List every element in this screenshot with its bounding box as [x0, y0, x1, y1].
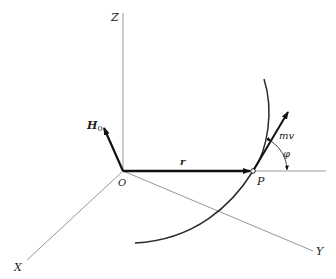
angular-momentum-subscript: 0	[97, 124, 102, 133]
angular-momentum-symbol: H	[86, 119, 98, 132]
x-axis	[27, 171, 123, 260]
momentum-vector-label: mv	[279, 130, 294, 141]
angular-momentum-diagram: Z X Y O H0 r mv P φ	[0, 0, 336, 279]
x-axis-label: X	[13, 261, 23, 274]
point-p-marker	[251, 169, 256, 174]
angular-momentum-label: H0	[86, 119, 103, 133]
point-p-label: P	[256, 175, 265, 188]
angular-momentum-vector	[104, 128, 123, 171]
origin-label: O	[118, 177, 126, 188]
trajectory-curve	[135, 79, 269, 243]
angle-phi-label: φ	[283, 148, 290, 159]
y-axis-label: Y	[316, 245, 325, 258]
position-vector-label: r	[180, 156, 186, 167]
z-axis-label: Z	[110, 11, 119, 24]
momentum-vector	[253, 112, 288, 171]
